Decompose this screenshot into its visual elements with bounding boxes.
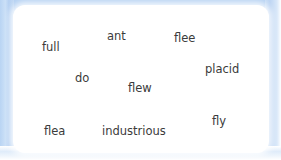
cloud-word[interactable]: flee (174, 33, 195, 45)
cloud-word[interactable]: flea (44, 126, 65, 138)
cloud-word[interactable]: ant (107, 31, 126, 43)
word-cloud-canvas: fullantfleeplaciddoflewflyfleaindustriou… (0, 0, 281, 160)
cloud-word[interactable]: placid (205, 64, 239, 76)
cloud-word[interactable]: industrious (102, 126, 166, 138)
cloud-word[interactable]: flew (128, 83, 152, 95)
word-cloud-card: fullantfleeplaciddoflewflyfleaindustriou… (13, 5, 269, 153)
cloud-word[interactable]: full (42, 42, 60, 54)
cloud-word[interactable]: do (75, 73, 89, 85)
word-list: fullantfleeplaciddoflewflyfleaindustriou… (13, 5, 269, 153)
background-left-band (0, 0, 14, 160)
cloud-word[interactable]: fly (212, 116, 226, 128)
